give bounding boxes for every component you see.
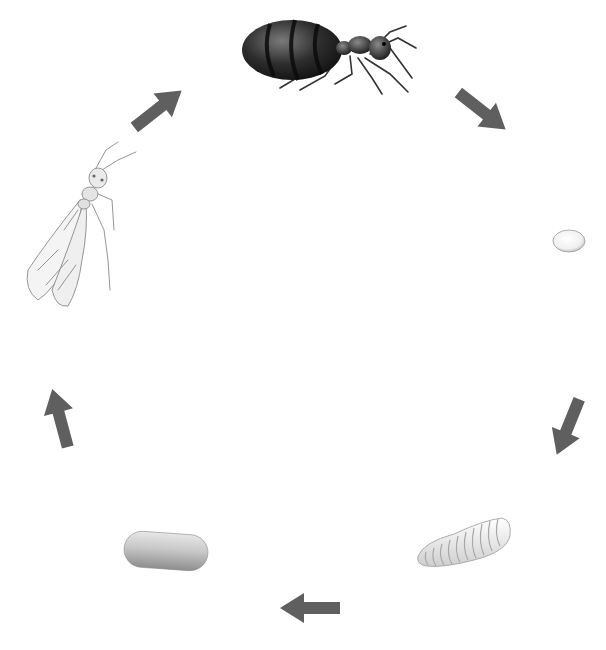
arrow-queen-to-egg-icon: [449, 81, 515, 142]
arrow-larva-to-pupa-icon: [280, 593, 340, 623]
egg-illustration: [552, 229, 586, 253]
arrow-alate-to-queen-icon: [125, 79, 191, 140]
winged-ant-illustration: [18, 140, 138, 312]
arrow-pupa-to-alate-icon: [38, 385, 83, 451]
arrow-egg-to-larva-icon: [543, 394, 593, 461]
pupa-illustration: [122, 530, 210, 572]
larva-illustration: [414, 512, 512, 570]
queen-ant-illustration: [240, 8, 420, 98]
